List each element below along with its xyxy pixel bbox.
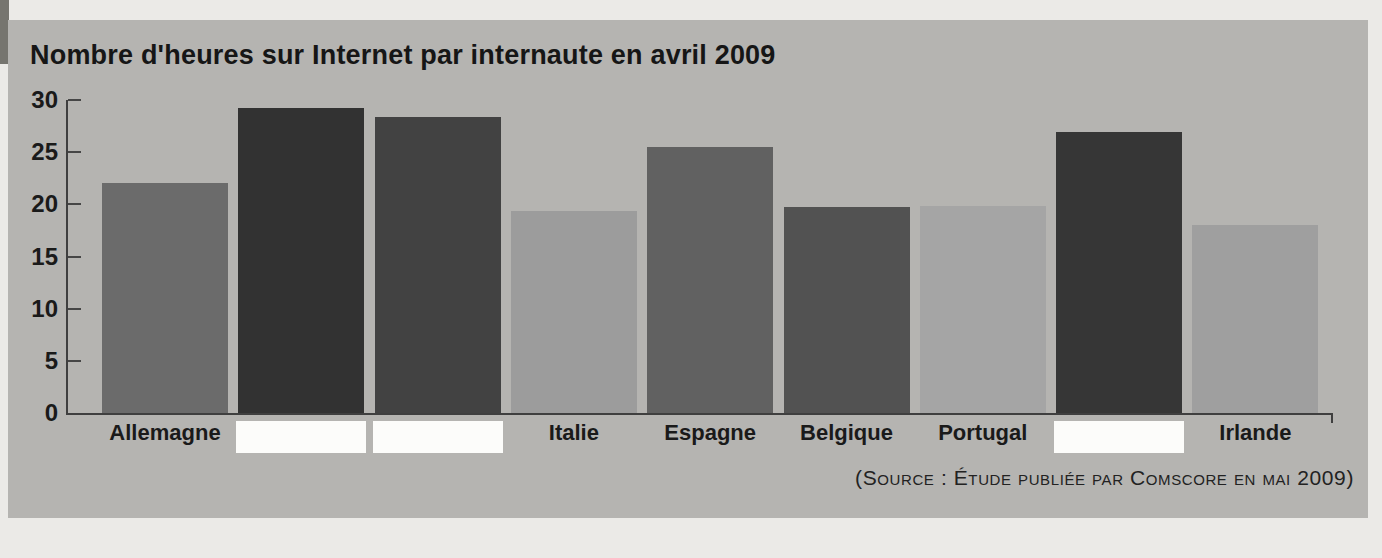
bar-italie [511,211,637,413]
y-tick-label-20: 20 [16,191,58,217]
y-tick-5 [68,360,81,362]
y-tick-15 [68,256,81,258]
x-label-irlande: Irlande [1180,420,1330,446]
x-label-portugal: Portugal [908,420,1058,446]
hidden-label-box-8 [1054,421,1184,453]
source-caption: (Source : Étude publiée par Comscore en … [855,466,1354,490]
hidden-label-box-2 [236,421,366,453]
y-tick-label-15: 15 [16,244,58,270]
x-label-allemagne: Allemagne [90,420,240,446]
y-tick-30 [68,99,81,101]
bar-hidden-8 [1056,132,1182,413]
y-tick-10 [68,308,81,310]
bar-hidden-3 [375,117,501,413]
y-tick-label-25: 25 [16,139,58,165]
y-tick-label-0: 0 [16,400,58,426]
bar-chart-plot-area: 051015202530AllemagneItalieEspagneBelgiq… [66,100,1332,415]
bar-portugal [920,206,1046,413]
x-label-espagne: Espagne [635,420,785,446]
chart-panel: Nombre d'heures sur Internet par interna… [8,20,1368,518]
y-tick-25 [68,151,81,153]
y-tick-label-5: 5 [16,348,58,374]
bar-allemagne [102,183,228,413]
x-axis-end-tick [1331,413,1333,423]
x-label-italie: Italie [499,420,649,446]
scanned-page: Nombre d'heures sur Internet par interna… [0,0,1382,558]
y-tick-20 [68,203,81,205]
chart-title: Nombre d'heures sur Internet par interna… [30,40,776,71]
y-tick-label-30: 30 [16,87,58,113]
bar-espagne [647,147,773,413]
x-label-belgique: Belgique [772,420,922,446]
bar-belgique [784,207,910,413]
hidden-label-box-3 [373,421,503,453]
bar-hidden-2 [238,108,364,413]
bar-irlande [1192,225,1318,413]
y-tick-label-10: 10 [16,296,58,322]
